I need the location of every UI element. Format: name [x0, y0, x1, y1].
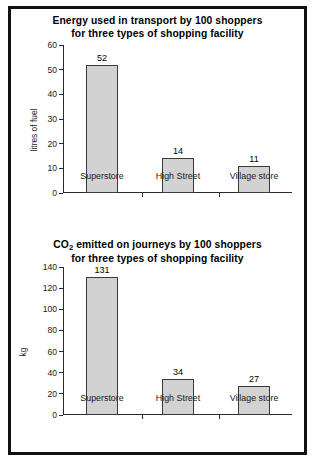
co2-title-subscript: 2	[69, 243, 73, 252]
co2-title-pre: CO	[53, 239, 69, 250]
energy-bar-value-high-street: 14	[173, 146, 183, 156]
co2-bar-value-superstore: 131	[94, 265, 109, 275]
energy-ytick-50: 50	[11, 65, 63, 75]
energy-bar-value-village-store: 11	[249, 154, 258, 164]
energy-ytick-20: 20	[11, 139, 63, 149]
energy-ytick-30: 30	[11, 114, 63, 124]
co2-ytick-140: 140	[11, 262, 63, 272]
energy-xlabel-high-street: High Street	[156, 171, 200, 181]
co2-xlabel-superstore: Superstore	[80, 393, 123, 403]
co2-ytick-80: 80	[11, 325, 63, 335]
energy-bar-value-superstore: 52	[97, 53, 107, 63]
energy-ytick-40: 40	[11, 89, 63, 99]
energy-xlabel-superstore: Superstore	[80, 171, 123, 181]
energy-ytick-10: 10	[11, 163, 63, 173]
co2-chart: CO2 emitted on journeys by 100 shoppers …	[11, 233, 304, 448]
energy-plot-area: litres of fuel 60 50 40 30 20 10 0 52 14	[11, 39, 304, 221]
co2-bar-value-high-street: 34	[173, 367, 183, 377]
co2-x-axis-labels: Superstore High Street Village store	[64, 389, 292, 415]
co2-xlabel-village-store: Village store	[230, 393, 279, 403]
energy-chart: Energy used in transport by 100 shoppers…	[11, 9, 304, 227]
energy-ytick-60: 60	[11, 40, 63, 50]
energy-chart-title-line1: Energy used in transport by 100 shoppers	[17, 15, 298, 28]
co2-ytick-60: 60	[11, 347, 63, 357]
energy-xlabel-village-store: Village store	[230, 171, 279, 181]
co2-ytick-120: 120	[11, 283, 63, 293]
co2-ytick-40: 40	[11, 368, 63, 378]
figure-frame: Energy used in transport by 100 shoppers…	[8, 6, 307, 455]
co2-bar-value-village-store: 27	[249, 374, 259, 384]
co2-xlabel-high-street: High Street	[156, 393, 200, 403]
co2-ytick-20: 20	[11, 389, 63, 399]
co2-ytick-0: 0	[11, 410, 63, 420]
co2-chart-title-line1: CO2 emitted on journeys by 100 shoppers	[17, 239, 298, 253]
co2-title-post: emitted on journeys by 100 shoppers	[73, 239, 261, 250]
energy-ytick-0: 0	[11, 188, 63, 198]
energy-x-axis-labels: Superstore High Street Village store	[64, 167, 292, 193]
co2-ytick-100: 100	[11, 304, 63, 314]
co2-plot-area: kg 140 120 100 80 60 40 20 0 131 34	[11, 261, 304, 443]
energy-chart-title: Energy used in transport by 100 shoppers…	[11, 9, 304, 40]
